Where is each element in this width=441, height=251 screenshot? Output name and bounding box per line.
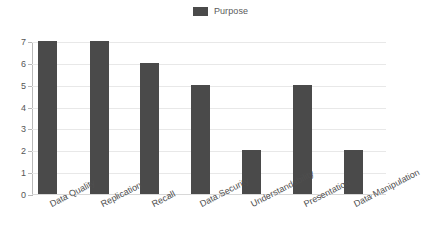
y-tick-label-6: 6 [2, 60, 26, 69]
y-tick-label-7: 7 [2, 38, 26, 47]
bar-recall [140, 63, 159, 194]
bar-data-security [191, 85, 210, 194]
y-tick-group-1: 1 [0, 173, 26, 174]
y-tick-group-6: 6 [0, 64, 26, 65]
plot-area [32, 42, 386, 195]
plot-wrapper: 7 6 5 4 3 2 1 0 Data Quality [0, 0, 441, 251]
y-tick-group-4: 4 [0, 108, 26, 109]
y-tick-label-4: 4 [2, 104, 26, 113]
y-tick-group-7: 7 [0, 42, 26, 43]
bar-replication [90, 41, 109, 194]
y-tick-mark-0 [28, 195, 32, 196]
y-tick-label-3: 3 [2, 125, 26, 134]
bar-understandability [242, 150, 261, 194]
gridline-7 [32, 42, 386, 43]
bar-data-quality [38, 41, 57, 194]
y-tick-label-1: 1 [2, 169, 26, 178]
bar-chart: Purpose [0, 0, 441, 251]
y-tick-mark-6 [28, 64, 32, 65]
y-tick-label-0: 0 [2, 191, 26, 200]
y-tick-mark-7 [28, 42, 32, 43]
y-tick-mark-4 [28, 108, 32, 109]
y-tick-mark-3 [28, 129, 32, 130]
gridline-6 [32, 64, 386, 65]
y-tick-label-5: 5 [2, 82, 26, 91]
y-tick-mark-5 [28, 86, 32, 87]
y-tick-group-5: 5 [0, 86, 26, 87]
y-tick-group-3: 3 [0, 129, 26, 130]
y-tick-label-2: 2 [2, 147, 26, 156]
y-tick-mark-2 [28, 151, 32, 152]
y-tick-group-2: 2 [0, 151, 26, 152]
y-tick-group-0: 0 [0, 195, 26, 196]
y-tick-mark-1 [28, 173, 32, 174]
